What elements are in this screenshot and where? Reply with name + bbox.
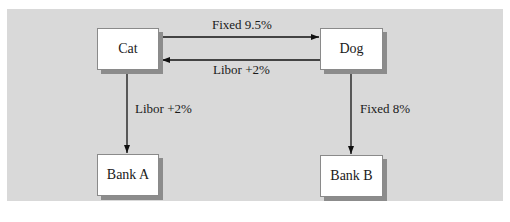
node-dog-label: Dog xyxy=(339,41,363,57)
node-cat-label: Cat xyxy=(118,41,137,57)
edge-label-cat-to-bank-a: Libor +2% xyxy=(135,101,192,117)
arrows-layer xyxy=(0,0,510,222)
node-bank-b-label: Bank B xyxy=(330,168,372,184)
node-cat: Cat xyxy=(97,28,159,70)
node-bank-a-label: Bank A xyxy=(107,167,149,183)
node-dog: Dog xyxy=(320,28,383,70)
edge-label-cat-to-dog: Fixed 9.5% xyxy=(212,17,272,33)
edge-label-dog-to-cat: Libor +2% xyxy=(213,62,270,78)
node-bank-a: Bank A xyxy=(97,154,159,196)
node-bank-b: Bank B xyxy=(320,155,383,197)
edge-label-dog-to-bank-b: Fixed 8% xyxy=(360,101,410,117)
